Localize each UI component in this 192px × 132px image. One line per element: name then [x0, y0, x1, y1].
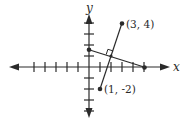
- x-axis-right-arrow-icon: [160, 64, 170, 71]
- bisector-x-intercept-point: [142, 65, 147, 70]
- perpendicular-bisector: [89, 50, 144, 67]
- coordinate-plane-diagram: y x (3, 4) (1, -2): [0, 0, 192, 132]
- point-label-1-neg2: (1, -2): [104, 83, 136, 95]
- point-1-neg2: [98, 87, 103, 92]
- point-label-3-4: (3, 4): [126, 18, 154, 30]
- midpoint: [109, 54, 112, 57]
- bisector-y-intercept-point: [87, 47, 92, 52]
- point-3-4: [120, 21, 125, 26]
- x-axis-label: x: [173, 60, 180, 74]
- y-axis-down-arrow-icon: [86, 108, 93, 118]
- y-axis-label: y: [85, 1, 93, 15]
- x-axis-left-arrow-icon: [9, 64, 19, 71]
- y-axis-up-arrow-icon: [86, 14, 93, 24]
